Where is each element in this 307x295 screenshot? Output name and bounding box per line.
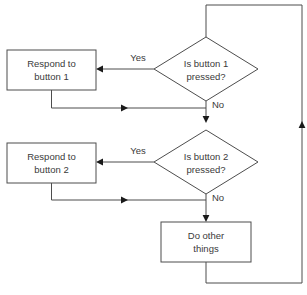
decision-node-is-button-2-pressed[interactable]: Is button 2 pressed? <box>154 130 258 194</box>
decision2-label-line1: Is button 2 <box>184 151 228 162</box>
decision1-label-line2: pressed? <box>186 71 225 82</box>
respond2-label-line2: button 2 <box>34 164 68 175</box>
respond1-label-line2: button 1 <box>34 71 68 82</box>
edge-decision2-yes: Yes <box>96 145 154 166</box>
edge-label-no-1: No <box>212 99 224 110</box>
respond1-merge-arrow-icon <box>121 105 128 112</box>
flowchart-svg: Is button 1 pressed? Yes Respond to butt… <box>0 0 307 295</box>
process-node-do-other-things[interactable]: Do other things <box>161 222 251 262</box>
decision1-yes-arrow-icon <box>96 66 103 73</box>
decision2-diamond <box>154 130 258 194</box>
decision2-no-arrow-icon <box>203 215 210 222</box>
edge-label-yes-1: Yes <box>130 52 146 63</box>
process-node-respond-to-button-2[interactable]: Respond to button 2 <box>7 143 96 183</box>
edge-respond2-to-merge <box>52 183 207 203</box>
decision1-label-line1: Is button 1 <box>184 58 228 69</box>
respond2-merge-arrow-icon <box>121 197 128 204</box>
flowchart-canvas: Is button 1 pressed? Yes Respond to butt… <box>0 0 307 295</box>
edge-label-yes-2: Yes <box>130 145 146 156</box>
edge-decision2-no: No <box>203 192 225 222</box>
edge-decision1-no: No <box>203 99 225 123</box>
respond2-label-line1: Respond to <box>27 151 76 162</box>
edge-respond1-to-merge <box>52 90 207 111</box>
respond2-merge-path <box>52 183 207 200</box>
dootherthings-label-line1: Do other <box>188 230 224 241</box>
respond1-merge-path <box>52 90 207 108</box>
decision1-diamond <box>154 37 258 101</box>
decision2-yes-arrow-icon <box>96 159 103 166</box>
decision1-no-arrow-icon <box>203 116 210 123</box>
process-node-respond-to-button-1[interactable]: Respond to button 1 <box>7 50 96 90</box>
decision-node-is-button-1-pressed[interactable]: Is button 1 pressed? <box>154 37 258 101</box>
edge-decision1-yes: Yes <box>96 52 154 73</box>
edge-label-no-2: No <box>212 192 224 203</box>
decision2-label-line2: pressed? <box>186 164 225 175</box>
loop-back-up-arrow-icon <box>299 121 306 128</box>
respond1-label-line1: Respond to <box>27 58 76 69</box>
dootherthings-label-line2: things <box>193 243 219 254</box>
